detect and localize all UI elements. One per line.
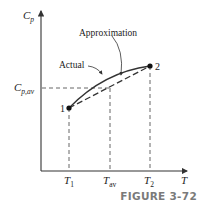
- point-2-label: 2: [155, 61, 160, 72]
- approximation-label: Approximation: [79, 28, 137, 38]
- approximation-leader: [112, 36, 122, 75]
- point-1-label: 1: [60, 103, 65, 114]
- approximation-line: [69, 66, 150, 108]
- x-axis-label: T: [181, 174, 188, 186]
- tick-label-t1: T1: [64, 174, 74, 189]
- cp-av-label: Cp,av: [14, 81, 35, 96]
- cp-vs-t-diagram: Cp Cp,av Approximation Actual 1 2 T1 Tav…: [0, 0, 199, 205]
- actual-label: Actual: [59, 60, 85, 70]
- point-2: [147, 63, 152, 68]
- actual-leader: [88, 66, 102, 74]
- tick-label-tav: Tav: [103, 174, 116, 189]
- figure-caption: FIGURE 3-72: [120, 190, 197, 202]
- tick-label-t2: T2: [144, 174, 154, 189]
- point-1: [66, 105, 71, 110]
- y-axis-label: Cp: [23, 9, 34, 24]
